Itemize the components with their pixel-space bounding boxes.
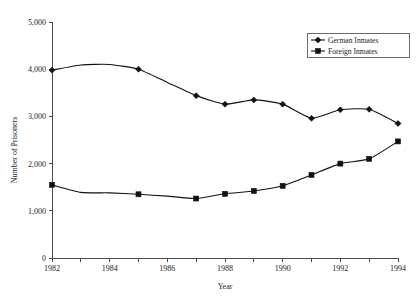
data-point-marker [366,106,372,112]
data-point-marker [338,161,343,166]
data-point-marker [223,191,228,196]
data-point-marker [194,196,199,201]
data-point-marker [280,101,286,107]
x-axis-tick-label: 1992 [332,264,348,273]
series-layer [49,64,401,201]
y-axis-tick-label: 5,000 [28,18,46,27]
legend-entry-label: German Inmates [328,36,378,45]
data-point-marker [309,115,315,121]
data-point-marker [280,183,285,188]
legend-marker-square-icon [316,49,321,54]
series-line [52,64,398,123]
data-point-marker [396,139,401,144]
y-axis-tick-label: 0 [42,254,46,263]
y-axis-tick-label: 3,000 [28,112,46,121]
legend-entry-label: Foreign Inmates [328,47,378,56]
x-axis-title: Year [218,282,233,291]
y-axis: 01,0002,0003,0004,0005,000 [28,18,52,263]
y-axis-tick-label: 1,000 [28,207,46,216]
line-chart: 01,0002,0003,0004,0005,000 1982198419861… [0,0,420,297]
data-point-marker [136,192,141,197]
data-point-marker [136,66,142,72]
data-point-marker [50,182,55,187]
data-point-marker [395,120,401,126]
series-1 [49,64,401,126]
y-axis-tick-label: 4,000 [28,65,46,74]
chart-container: 01,0002,0003,0004,0005,000 1982198419861… [0,0,420,297]
series-line [52,141,398,198]
x-axis-tick-label: 1982 [44,264,60,273]
data-point-marker [367,156,372,161]
data-point-marker [222,101,228,107]
chart-legend: German InmatesForeign Inmates [307,33,409,57]
data-point-marker [309,172,314,177]
x-axis-tick-label: 1994 [390,264,406,273]
x-axis-tick-label: 1990 [275,264,291,273]
data-point-marker [49,67,55,73]
x-axis-tick-label: 1986 [159,264,175,273]
data-point-marker [251,97,257,103]
data-point-marker [337,107,343,113]
x-axis-tick-label: 1984 [102,264,118,273]
data-point-marker [193,93,199,99]
y-axis-tick-label: 2,000 [28,160,46,169]
y-axis-title: Number of Prisoners [10,117,19,184]
x-axis-tick-label: 1988 [217,264,233,273]
series-2 [50,139,401,201]
x-axis: 1982198419861988199019921994 [44,258,406,273]
data-point-marker [251,188,256,193]
